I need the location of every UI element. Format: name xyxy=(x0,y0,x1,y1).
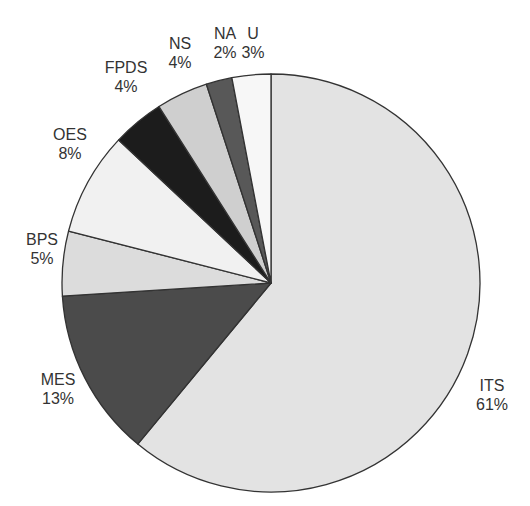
label-ns: NS 4% xyxy=(168,34,191,72)
label-u-name: U xyxy=(241,24,264,43)
label-na: NA 2% xyxy=(213,24,236,62)
pie-slices xyxy=(62,74,480,492)
label-its: ITS 61% xyxy=(476,376,508,414)
label-oes: OES 8% xyxy=(53,125,87,163)
label-bps-percent: 5% xyxy=(26,249,58,268)
label-na-percent: 2% xyxy=(213,43,236,62)
label-ns-percent: 4% xyxy=(168,53,191,72)
label-fpds: FPDS 4% xyxy=(105,58,148,96)
label-mes: MES 13% xyxy=(41,370,76,408)
label-bps-name: BPS xyxy=(26,230,58,249)
label-its-percent: 61% xyxy=(476,395,508,414)
label-oes-percent: 8% xyxy=(53,144,87,163)
pie-chart-svg xyxy=(0,0,530,506)
label-oes-name: OES xyxy=(53,125,87,144)
label-fpds-name: FPDS xyxy=(105,58,148,77)
label-u-percent: 3% xyxy=(241,43,264,62)
label-its-name: ITS xyxy=(476,376,508,395)
label-mes-name: MES xyxy=(41,370,76,389)
label-u: U 3% xyxy=(241,24,264,62)
label-na-name: NA xyxy=(213,24,236,43)
label-mes-percent: 13% xyxy=(41,389,76,408)
pie-chart: ITS 61% MES 13% BPS 5% OES 8% FPDS 4% NS… xyxy=(0,0,530,506)
label-bps: BPS 5% xyxy=(26,230,58,268)
label-fpds-percent: 4% xyxy=(105,77,148,96)
label-ns-name: NS xyxy=(168,34,191,53)
